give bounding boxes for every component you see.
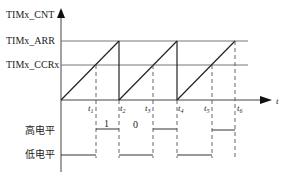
tick-label-t5: t5 — [204, 103, 210, 114]
x-axis-label: t — [276, 96, 279, 106]
ramp-1 — [61, 41, 119, 100]
high-level-label: 高电平 — [25, 124, 55, 136]
y-axis-arrow-icon — [57, 8, 65, 18]
arr-label: TIMx_ARR — [6, 35, 55, 46]
tick-label-t1: t1 — [88, 103, 94, 114]
pwm-timing-diagram: TIMx_CNT t TIMx_ARR TIMx_CCRx t1 t2 t3 t… — [0, 0, 283, 186]
y-axis-label: TIMx_CNT — [6, 9, 54, 20]
time-tick-labels: t1 t2 t3 t4 t5 t6 — [88, 103, 243, 114]
tick-label-t2: t2 — [120, 103, 126, 114]
ramp-2 — [119, 41, 177, 100]
bit-label-1: 1 — [104, 118, 109, 129]
tick-label-t3: t3 — [145, 103, 151, 114]
x-axis-arrow-icon — [260, 96, 272, 104]
tick-label-t6: t6 — [237, 103, 243, 114]
ccr-label: TIMx_CCRx — [6, 59, 59, 70]
bit-label-0: 0 — [133, 119, 138, 130]
counter-sawtooth — [61, 41, 235, 100]
tick-label-t4: t4 — [178, 103, 184, 114]
output-waveform — [61, 129, 235, 155]
low-level-label: 低电平 — [25, 148, 55, 160]
ramp-3 — [177, 41, 235, 100]
